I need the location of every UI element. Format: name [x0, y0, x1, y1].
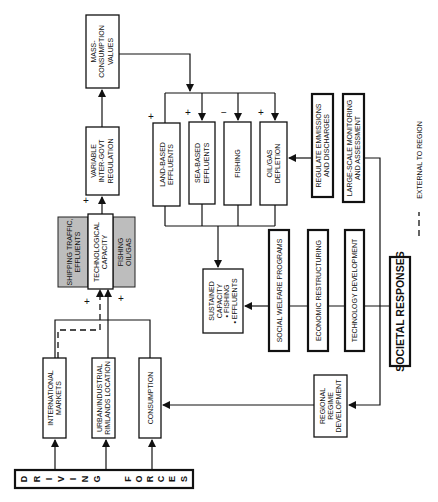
svg-text:OIL/GAS: OIL/GAS: [266, 149, 273, 177]
node-regional-regime: REGIONAL REGIME DEVELOPMENT: [314, 375, 347, 437]
svg-text:TECHNOLOGY DEVELOPMENT: TECHNOLOGY DEVELOPMENT: [351, 238, 358, 342]
svg-text:LAND-BASED: LAND-BASED: [159, 142, 166, 187]
svg-text:O: O: [134, 475, 144, 482]
svg-text:REGULATION: REGULATION: [107, 139, 114, 184]
svg-text:DEVELOPMENT: DEVELOPMENT: [335, 379, 342, 433]
sign-tech-left: +: [84, 296, 90, 307]
svg-text:EFFLUENTS: EFFLUENTS: [167, 144, 174, 185]
sign-regulation-in: +: [83, 195, 89, 206]
svg-text:CONSUMPTION: CONSUMPTION: [147, 372, 154, 425]
svg-text:G: G: [92, 475, 102, 482]
svg-text:VARIABLE: VARIABLE: [90, 144, 97, 178]
svg-text:AND DISCHARGES: AND DISCHARGES: [323, 114, 330, 177]
monitoring-trunk: [364, 158, 380, 306]
sign-oil-gas: +: [258, 107, 264, 118]
svg-text:CAPACITY: CAPACITY: [101, 234, 108, 269]
node-sea-based-effluents: SEA-BASED EFFLUENTS: [189, 122, 215, 204]
svg-text:SHIPPING TRAFFIC,: SHIPPING TRAFFIC,: [66, 219, 73, 286]
dashed-arrowhead: [96, 289, 104, 297]
node-sustained-capacity: SUSTAINED CAPACITY • FISHING • EFFLUENTS: [203, 269, 243, 333]
svg-text:ECONOMIC RESTRUCTURING: ECONOMIC RESTRUCTURING: [315, 240, 322, 341]
svg-text:EFFLUENTS: EFFLUENTS: [74, 231, 81, 272]
svg-text:INTERNATIONAL: INTERNATIONAL: [47, 370, 54, 426]
svg-text:REGIONAL: REGIONAL: [319, 388, 326, 424]
svg-text:SUSTAINED: SUSTAINED: [208, 281, 215, 321]
node-technology-development: TECHNOLOGY DEVELOPMENT: [345, 230, 364, 351]
svg-text:• EFFLUENTS: • EFFLUENTS: [231, 278, 238, 324]
svg-text:AND ASSESSMENT: AND ASSESSMENT: [354, 115, 361, 180]
drivers-top-bus: [55, 320, 150, 358]
svg-text:V: V: [56, 476, 66, 482]
node-international-markets: INTERNATIONAL MARKETS: [43, 358, 66, 438]
svg-text:MARKETS: MARKETS: [55, 381, 62, 415]
svg-text:SEA-BASED: SEA-BASED: [194, 143, 201, 183]
diagram-canvas: MASS- CONSUMPTION VALUES VARIABLE INTER-…: [0, 0, 438, 502]
sign-sea-based: +: [185, 107, 191, 118]
svg-text:CONSUMPTION: CONSUMPTION: [98, 25, 105, 78]
svg-text:DEPLETION: DEPLETION: [274, 144, 281, 184]
sign-fishing: −: [221, 107, 227, 118]
node-societal-responses: SOCIETAL RESPONSES: [390, 251, 410, 371]
svg-text:MASS-: MASS-: [90, 40, 97, 63]
svg-text:URBAN/INDUSTRIAL: URBAN/INDUSTRIAL: [96, 364, 103, 432]
node-urban-industrial: URBAN/INDUSTRIAL RIMLANDS LOCATION: [92, 358, 115, 438]
svg-text:I: I: [44, 478, 54, 481]
svg-text:S: S: [179, 476, 189, 482]
svg-text:REGULATE EMMISSIONS: REGULATE EMMISSIONS: [315, 103, 322, 187]
svg-text:VALUES: VALUES: [107, 38, 114, 65]
svg-text:E: E: [167, 476, 177, 482]
svg-text:F: F: [123, 476, 133, 482]
node-variable-regulation: VARIABLE INTER-GOVT REGULATION: [86, 127, 119, 195]
sign-land-based: +: [148, 111, 154, 122]
node-large-scale-monitoring: LARGE-SCALE MONITORING AND ASSESSMENT: [343, 94, 364, 202]
svg-text:TECHNOLOGICAL: TECHNOLOGICAL: [93, 222, 100, 282]
svg-text:FISHING: FISHING: [117, 238, 124, 266]
node-fishing: FISHING: [224, 122, 251, 205]
external-dashed-link: [58, 290, 100, 358]
svg-text:N: N: [80, 476, 90, 483]
node-consumption: CONSUMPTION: [139, 358, 161, 438]
node-mass-consumption: MASS- CONSUMPTION VALUES: [86, 15, 119, 88]
legend-external-to-region: EXTERNAL TO REGION: [416, 121, 423, 236]
svg-text:SOCIAL WELFARE PROGRAMS: SOCIAL WELFARE PROGRAMS: [276, 238, 283, 342]
svg-text:C: C: [156, 475, 166, 482]
svg-text:INTER-GOVT: INTER-GOVT: [98, 139, 105, 183]
svg-text:R: R: [145, 475, 155, 482]
node-oil-gas-depletion: OIL/GAS DEPLETION: [260, 122, 287, 205]
arrow-mass-to-impacts: [119, 54, 190, 91]
node-regulate-emissions: REGULATE EMMISSIONS AND DISCHARGES: [312, 94, 333, 197]
svg-text:RIMLANDS LOCATION: RIMLANDS LOCATION: [104, 361, 111, 434]
node-technological-capacity-group: SHIPPING TRAFFIC, EFFLUENTS TECHNOLOGICA…: [58, 214, 135, 289]
svg-text:CAPACITY: CAPACITY: [216, 283, 223, 318]
node-social-welfare: SOCIAL WELFARE PROGRAMS: [269, 230, 289, 351]
svg-text:• FISHING: • FISHING: [223, 285, 230, 318]
svg-text:EXTERNAL TO REGION: EXTERNAL TO REGION: [416, 121, 423, 199]
svg-text:REGIME: REGIME: [327, 392, 334, 420]
node-land-based-effluents: LAND-BASED EFFLUENTS: [153, 123, 180, 206]
svg-text:I: I: [68, 478, 78, 481]
svg-text:R: R: [32, 475, 42, 482]
svg-text:LARGE-SCALE MONITORING: LARGE-SCALE MONITORING: [346, 100, 353, 196]
svg-text:D: D: [19, 475, 29, 482]
svg-text:FISHING: FISHING: [234, 149, 241, 177]
node-economic-restructuring: ECONOMIC RESTRUCTURING: [308, 230, 328, 351]
svg-text:EFFLUENTS: EFFLUENTS: [203, 142, 210, 183]
svg-text:SOCIETAL RESPONSES: SOCIETAL RESPONSES: [394, 251, 406, 371]
node-driving-forces: D R I V I N G F O R C E S: [15, 470, 193, 488]
svg-text:OIL/GAS: OIL/GAS: [125, 238, 132, 266]
sign-tech-right: +: [118, 293, 124, 304]
